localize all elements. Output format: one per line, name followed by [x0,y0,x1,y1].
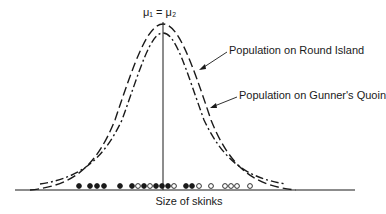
label-round-island: Population on Round Island [229,44,364,56]
sample-point-filled [88,184,93,189]
arrowhead-round-island [199,64,206,70]
arrowhead-gunners-quoin [210,103,217,108]
sample-point-filled [142,184,147,189]
sample-point-filled [190,184,195,189]
sample-point-open [172,184,177,189]
label-gunners-quoin: Population on Gunner's Quoin [239,89,386,101]
sample-point-open [148,184,153,189]
sample-point-open [223,184,228,189]
sample-point-filled [184,184,189,189]
sample-point-open [229,184,234,189]
sample-point-filled [130,184,135,189]
sample-point-filled [118,184,123,189]
sample-point-open [235,184,240,189]
sample-point-filled [166,184,171,189]
sample-point-filled [160,184,165,189]
sample-point-open [136,184,141,189]
x-axis-label: Size of skinks [0,195,378,207]
sample-point-open [197,184,202,189]
sample-point-filled [77,184,82,189]
sample-point-filled [102,184,107,189]
mean-label: μ₁ = μ₂ [143,6,176,18]
sample-point-filled [154,184,159,189]
sample-points [77,184,253,189]
sample-point-open [209,184,214,189]
sample-point-filled [95,184,100,189]
sample-point-open [248,184,253,189]
